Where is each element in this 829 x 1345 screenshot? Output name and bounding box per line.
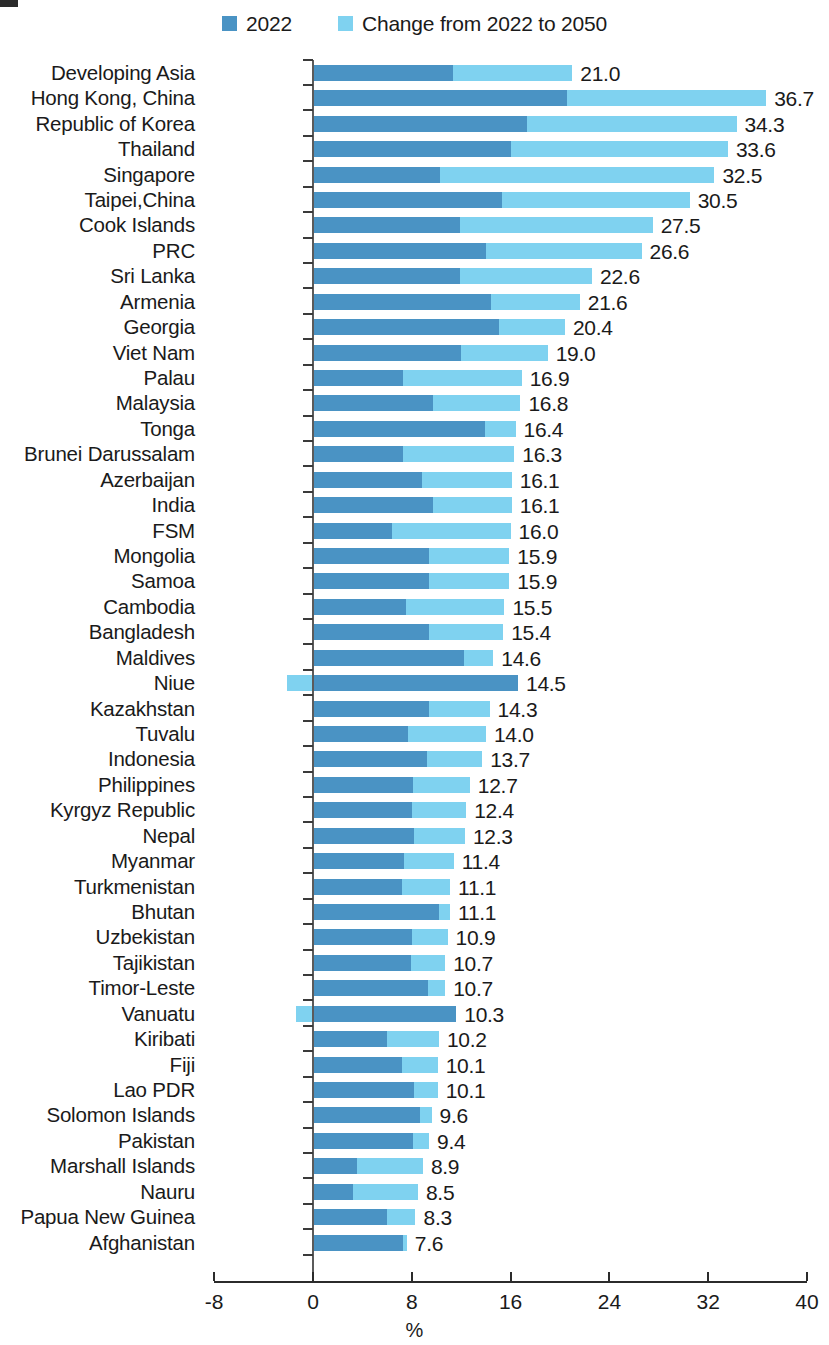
bar-segment-2022 <box>313 345 461 361</box>
x-axis-tick-label: 0 <box>307 1291 319 1312</box>
zero-axis-tick <box>303 593 313 595</box>
bar-segment-2022 <box>313 268 460 284</box>
stacked-bar: 27.5 <box>0 217 829 233</box>
bar-value-label: 11.1 <box>458 876 496 897</box>
bar-value-label: 9.6 <box>440 1105 468 1126</box>
bar-segment-2022 <box>313 90 567 106</box>
bar-segment-change <box>387 1031 439 1047</box>
zero-axis-tick <box>303 1127 313 1129</box>
bar-segment-2022 <box>313 395 433 411</box>
bar-value-label: 26.6 <box>650 240 690 261</box>
zero-axis-tick <box>303 364 313 366</box>
stacked-bar: 21.6 <box>0 294 829 310</box>
x-axis-tick <box>411 1272 413 1281</box>
bar-row: Kiribati10.2 <box>0 1027 829 1052</box>
zero-baseline <box>312 60 314 1282</box>
stacked-bar: 10.3 <box>0 1006 829 1022</box>
bar-row: Philippines12.7 <box>0 773 829 798</box>
bar-value-label: 8.9 <box>431 1156 459 1177</box>
bar-value-label: 16.8 <box>528 393 568 414</box>
bar-segment-2022 <box>313 167 440 183</box>
bar-value-label: 34.3 <box>745 113 785 134</box>
zero-axis-tick <box>303 338 313 340</box>
stacked-bar: 14.0 <box>0 726 829 742</box>
bar-value-label: 33.6 <box>736 139 776 160</box>
zero-axis-tick <box>303 898 313 900</box>
bar-row: Uzbekistan10.9 <box>0 925 829 950</box>
bar-value-label: 19.0 <box>556 342 596 363</box>
stacked-bar: 16.0 <box>0 523 829 539</box>
stacked-bar: 10.7 <box>0 980 829 996</box>
stacked-bar: 10.9 <box>0 929 829 945</box>
bar-segment-2022 <box>313 1235 403 1251</box>
bar-row: Armenia21.6 <box>0 289 829 314</box>
bar-value-label: 16.9 <box>530 368 570 389</box>
zero-axis-tick <box>303 745 313 747</box>
bar-row: Niue14.5 <box>0 671 829 696</box>
bar-segment-change <box>453 65 573 81</box>
bar-row: Hong Kong, China36.7 <box>0 86 829 111</box>
bar-segment-2022 <box>313 217 460 233</box>
zero-axis-tick <box>303 771 313 773</box>
stacked-bar: 20.4 <box>0 319 829 335</box>
zero-axis-tick <box>303 491 313 493</box>
bar-segment-2022 <box>313 701 429 717</box>
bar-segment-2022 <box>313 472 422 488</box>
bar-row: Turkmenistan11.1 <box>0 874 829 899</box>
bar-row: Nauru8.5 <box>0 1179 829 1204</box>
stacked-bar: 16.8 <box>0 395 829 411</box>
bar-row: Timor-Leste10.7 <box>0 976 829 1001</box>
stacked-bar: 14.6 <box>0 650 829 666</box>
bar-row: Republic of Korea34.3 <box>0 111 829 136</box>
bar-segment-change <box>402 879 450 895</box>
bar-segment-2022 <box>313 116 527 132</box>
bar-segment-change <box>404 853 453 869</box>
bar-segment-change <box>464 650 494 666</box>
zero-axis-tick <box>303 84 313 86</box>
zero-axis-tick <box>303 440 313 442</box>
bar-segment-change <box>460 217 653 233</box>
bar-row: Thailand33.6 <box>0 137 829 162</box>
bar-value-label: 7.6 <box>415 1232 443 1253</box>
x-axis-tick <box>510 1272 512 1281</box>
bar-segment-change <box>414 828 465 844</box>
bar-value-label: 21.6 <box>588 291 628 312</box>
bar-segment-change <box>461 345 547 361</box>
zero-axis-tick <box>303 542 313 544</box>
stacked-bar: 16.9 <box>0 370 829 386</box>
bar-segment-2022 <box>313 370 403 386</box>
stacked-bar: 14.3 <box>0 701 829 717</box>
bar-segment-2022 <box>313 573 429 589</box>
bar-segment-2022 <box>313 497 433 513</box>
zero-axis-tick <box>303 567 313 569</box>
zero-axis-tick <box>303 59 313 61</box>
stacked-bar: 15.9 <box>0 548 829 564</box>
zero-axis-tick <box>303 135 313 137</box>
bar-segment-change <box>403 370 522 386</box>
bar-row: Tuvalu14.0 <box>0 722 829 747</box>
stacked-bar: 15.9 <box>0 573 829 589</box>
bar-segment-change <box>502 192 690 208</box>
bar-row: Pakistan9.4 <box>0 1129 829 1154</box>
bar-value-label: 15.4 <box>511 622 551 643</box>
bar-segment-change <box>440 167 714 183</box>
bar-value-label: 16.4 <box>524 418 564 439</box>
bar-value-label: 15.9 <box>517 546 557 567</box>
bar-row: Georgia20.4 <box>0 315 829 340</box>
bar-value-label: 20.4 <box>573 317 613 338</box>
stacked-bar: 12.3 <box>0 828 829 844</box>
bar-segment-change <box>486 243 642 259</box>
zero-axis-tick <box>303 669 313 671</box>
bar-segment-change <box>406 599 505 615</box>
bar-segment-2022 <box>313 802 412 818</box>
bar-segment-2022 <box>313 421 485 437</box>
bar-value-label: 10.2 <box>447 1029 487 1050</box>
bar-row: Vanuatu10.3 <box>0 1001 829 1026</box>
bar-segment-2022 <box>313 726 408 742</box>
zero-axis-tick <box>303 1254 313 1256</box>
zero-axis-tick <box>303 1076 313 1078</box>
bar-value-label: 22.6 <box>600 266 640 287</box>
stacked-bar: 16.1 <box>0 472 829 488</box>
bar-segment-2022 <box>313 319 499 335</box>
bar-segment-change <box>429 701 490 717</box>
